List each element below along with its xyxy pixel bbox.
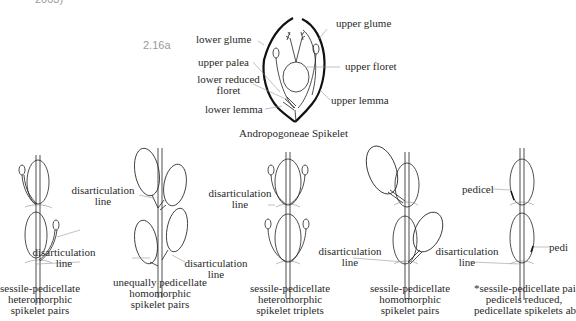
label-lower-lemma: lower lemma [205, 104, 263, 115]
label-upper-lemma: upper lemma [331, 95, 389, 106]
disarticulation-label: disarticulationline [24, 247, 104, 269]
panel-5-drawing [493, 148, 549, 300]
andropogoneae-spikelet-drawing [253, 18, 340, 122]
panel-1-caption: sessile-pedicellateheteromorphicspikelet… [0, 283, 80, 316]
label-upper-palea: upper palea [198, 57, 249, 68]
figure-label: 2.16a [143, 40, 171, 51]
panel-3-drawing [265, 152, 309, 298]
panel-2-caption: unequally pedicellatehomomorphicspikelet… [110, 277, 210, 310]
panel-3-caption: sessile-pedicellateheteromorphicspikelet… [250, 283, 330, 316]
header-fragment: 2003) [35, 0, 63, 5]
label-lower-glume: lower glume [196, 34, 251, 45]
disarticulation-label: disarticulationline [63, 185, 143, 207]
label-upper-glume: upper glume [336, 18, 391, 29]
panel-4-drawing [360, 142, 448, 300]
label-upper-floret: upper floret [345, 61, 397, 72]
disarticulation-label: disarticulationline [427, 246, 507, 268]
panel-5-caption: *sessile-pedicellate paipedicels reduced… [474, 283, 574, 316]
panel-4-caption: sessile-pedicellatehomomorphicspikelet p… [370, 283, 450, 316]
disarticulation-label: disarticulationline [310, 246, 390, 268]
disarticulation-label: disarticulationline [200, 188, 280, 210]
pedicel-label-cut: pedi [549, 242, 568, 253]
spikelet-title: Andropogoneae Spikelet [239, 128, 348, 139]
pedicel-label: pedicel [462, 184, 494, 195]
label-lower-reduced-floret: lower reduced floret [197, 74, 260, 96]
